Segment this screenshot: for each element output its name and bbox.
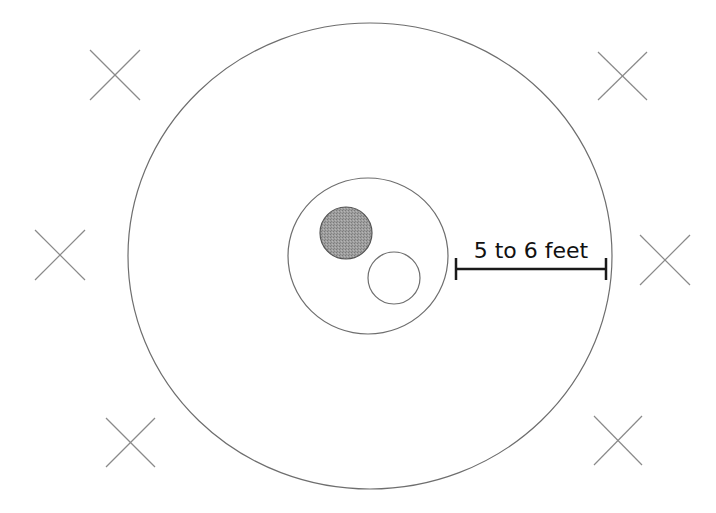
x-marker-top-left (90, 50, 140, 100)
inner-circle (288, 178, 448, 334)
filled-circle (320, 207, 372, 259)
x-marker-middle-left (35, 230, 85, 280)
diagram-canvas: 5 to 6 feet (0, 0, 716, 513)
open-circle (368, 252, 420, 304)
dimension-label: 5 to 6 feet (474, 238, 589, 263)
x-marker-top-right (598, 52, 647, 100)
x-marker-bottom-right (594, 416, 642, 465)
x-marker-bottom-left (106, 418, 155, 467)
dimension-indicator: 5 to 6 feet (456, 238, 606, 280)
x-marker-middle-right (640, 235, 690, 285)
